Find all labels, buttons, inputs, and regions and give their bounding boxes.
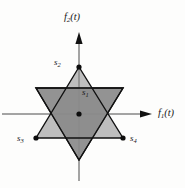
horizontal-axis-label: f1(t)	[158, 108, 174, 120]
horizontal-axis-arrow-icon	[140, 110, 152, 117]
point-label-s2-subscript: 2	[58, 61, 61, 68]
point-label-s3: s3	[17, 134, 24, 144]
vertical-axis-label: f2(t)	[64, 12, 80, 24]
point-marker-s4	[120, 135, 125, 140]
point-label-s1: s1	[82, 88, 89, 98]
vertical-axis-arrow-icon	[75, 32, 82, 44]
point-label-s1-subscript: 1	[86, 91, 89, 98]
point-label-s2: s2	[54, 58, 61, 68]
point-marker-s2	[76, 64, 81, 69]
point-marker-s3	[33, 135, 38, 140]
point-label-s4: s4	[130, 134, 137, 144]
constellation-figure: f2(t) f1(t) s2 s1 s3 s4	[0, 0, 185, 188]
horizontal-axis-label-tail: (t)	[164, 107, 174, 118]
point-label-s3-subscript: 3	[21, 137, 24, 144]
vertical-axis-label-tail: (t)	[70, 11, 80, 22]
point-label-s4-subscript: 4	[134, 137, 137, 144]
point-marker-s1	[76, 111, 81, 116]
figure-canvas	[0, 0, 185, 188]
